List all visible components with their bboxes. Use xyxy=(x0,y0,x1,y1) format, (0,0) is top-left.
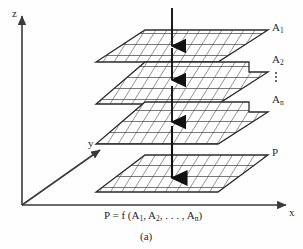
plane-label-a1-base: A xyxy=(272,21,280,33)
vertical-ellipsis-icon xyxy=(275,70,277,84)
y-axis-label: y xyxy=(88,138,94,149)
plane-label-p-base: P xyxy=(272,146,278,158)
plane-label-p: P xyxy=(272,147,278,158)
z-axis-label: z xyxy=(12,8,17,19)
plane-label-a2-base: A xyxy=(272,53,280,65)
plane-label-a1-sub: 1 xyxy=(280,26,284,35)
formula-mid-2: , . . . , A xyxy=(160,209,195,221)
figure-caption: (a) xyxy=(140,230,152,242)
formula-expression: P = f (A1, A2, . . . , An) xyxy=(104,209,202,221)
figure-3d-stacked-grid-planes: z y x A1 A2 An P P = f (A1, A2, . . . , … xyxy=(0,0,303,249)
formula-lhs: P = f (A xyxy=(104,209,139,221)
plane-label-a1: A1 xyxy=(272,22,284,33)
plane-label-an-sub: n xyxy=(280,98,284,107)
formula-sub-1: 1 xyxy=(139,214,143,223)
formula-rhs: ) xyxy=(198,209,202,221)
x-axis-label: x xyxy=(289,207,295,218)
plane-label-a2-sub: 2 xyxy=(280,58,284,67)
plane-label-an: An xyxy=(272,94,284,105)
y-axis-line xyxy=(22,150,100,205)
formula-sub-3: n xyxy=(195,214,199,223)
formula-sub-2: 2 xyxy=(156,214,160,223)
plane-label-a2: A2 xyxy=(272,54,284,65)
formula-mid-1: , A xyxy=(143,209,156,221)
plane-label-an-base: A xyxy=(272,93,280,105)
